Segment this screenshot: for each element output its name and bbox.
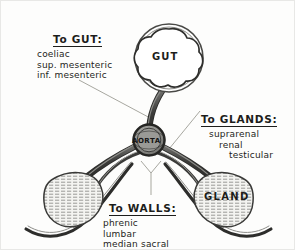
callout-glands-heading: To GLANDS: [201,113,277,127]
callout-walls: To WALLS: phrenic lumbar median sacral [103,197,176,250]
gut-organ-label: GUT [152,51,178,62]
leader-line-walls [141,161,161,195]
callout-gut-list: coeliac sup. mesenteric inf. mesenteric [37,49,112,81]
leader-line-glands [169,111,200,149]
gland-organ-left [44,172,103,226]
callout-walls-list: phrenic lumbar median sacral [103,218,176,250]
aorta-hub-label: AORTA [132,137,161,145]
callout-walls-item: lumbar [103,229,176,240]
callout-walls-item: phrenic [103,218,176,229]
callout-gut-item: inf. mesenteric [37,70,112,81]
leader-line-gut [79,80,152,119]
callout-glands-item: renal [201,140,277,151]
callout-walls-item: median sacral [103,239,176,250]
callout-glands-list: suprarenal renal testicular [201,129,277,161]
callout-glands-item: suprarenal [201,129,277,140]
callout-gut-heading: To GUT: [53,33,102,47]
callout-glands: To GLANDS: suprarenal renal testicular [201,108,277,161]
diagram-page: GUT GLAND AORTA To GUT: coeliac sup. mes… [0,0,295,250]
callout-gut: To GUT: coeliac sup. mesenteric inf. mes… [37,28,112,81]
callout-glands-item: testicular [201,150,277,161]
callout-walls-heading: To WALLS: [109,202,176,216]
callout-gut-item: coeliac [37,49,112,60]
gland-organ-label: GLAND [204,191,250,202]
callout-gut-item: sup. mesenteric [37,60,112,71]
